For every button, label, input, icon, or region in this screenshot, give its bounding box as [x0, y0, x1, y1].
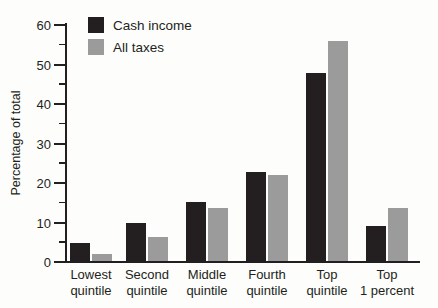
bar-group-fourth-quintile — [246, 23, 288, 261]
x-axis-label-top-1-percent: Top1 percent — [342, 267, 432, 299]
bar-group-top-1-percent — [366, 23, 408, 261]
bar-cash-income — [126, 223, 146, 261]
bar-cash-income — [366, 226, 386, 261]
legend-swatch-cash-income — [88, 17, 104, 33]
legend-label-cash-income: Cash income — [113, 18, 192, 33]
legend: Cash income All taxes — [88, 17, 192, 61]
bar-group-top-quintile — [306, 23, 348, 261]
bar-all-taxes — [148, 237, 168, 261]
bar-chart-figure: Percentage of total 0102030405060 Lowest… — [0, 0, 438, 308]
y-major-tick-0 — [54, 261, 65, 263]
bar-all-taxes — [328, 41, 348, 261]
bar-cash-income — [246, 172, 266, 261]
bar-cash-income — [186, 202, 206, 261]
bar-all-taxes — [208, 208, 228, 261]
plot-area — [0, 23, 438, 261]
bar-all-taxes — [92, 254, 112, 261]
bar-all-taxes — [268, 175, 288, 262]
legend-label-all-taxes: All taxes — [113, 40, 164, 55]
legend-item-cash-income: Cash income — [88, 17, 192, 33]
bar-all-taxes — [388, 208, 408, 261]
bar-cash-income — [306, 73, 326, 261]
bar-group-middle-quintile — [186, 23, 228, 261]
legend-swatch-all-taxes — [88, 39, 104, 55]
legend-item-all-taxes: All taxes — [88, 39, 192, 55]
x-axis — [61, 261, 420, 263]
bar-cash-income — [70, 243, 90, 261]
